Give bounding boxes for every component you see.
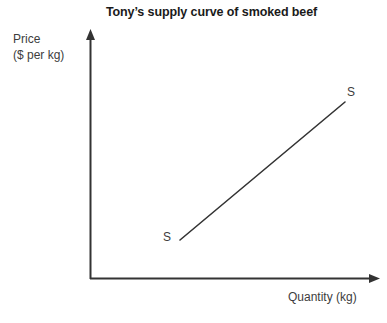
supply-curve-line bbox=[180, 102, 345, 240]
supply-curve-figure: Tony’s supply curve of smoked beef Price… bbox=[0, 0, 387, 323]
supply-curve-label-lower: S bbox=[163, 231, 171, 243]
plot-area bbox=[0, 0, 387, 323]
y-axis-arrowhead-icon bbox=[86, 29, 95, 40]
supply-curve-label-upper: S bbox=[347, 86, 355, 98]
x-axis-arrowhead-icon bbox=[369, 274, 380, 283]
x-axis-label: Quantity (kg) bbox=[288, 289, 357, 305]
